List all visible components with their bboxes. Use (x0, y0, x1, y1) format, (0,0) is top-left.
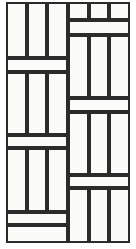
right-strip-block-4-tile-2 (90, 189, 109, 242)
left-strip-block-1 (7, 3, 67, 57)
left-strip-block-2-tile-3 (48, 73, 67, 134)
right-band-3 (69, 176, 129, 187)
left-strip-block-1-tile-3 (48, 3, 67, 57)
right-strip-block-2-tile-1 (69, 36, 88, 97)
right-band-2-tile (69, 99, 129, 111)
left-band-4 (7, 226, 67, 242)
right-strip-block-1-tile-3 (110, 3, 129, 19)
right-strip-block-3 (69, 113, 129, 174)
right-strip-block-2 (69, 36, 129, 97)
right-strip-block-3-tile-2 (90, 113, 109, 174)
right-strip-block-1-tile-1 (69, 3, 88, 19)
right-strip-block-1 (69, 3, 129, 19)
right-band-3-tile (69, 176, 129, 187)
left-strip-block-2 (7, 73, 67, 134)
left-band-1-tile (7, 59, 67, 71)
pattern-svg (0, 0, 136, 249)
right-strip-block-2-tile-2 (90, 36, 109, 97)
right-strip-block-4-tile-1 (69, 189, 88, 242)
left-strip-block-2-tile-1 (7, 73, 26, 134)
right-band-1 (69, 21, 129, 34)
left-band-4-tile (7, 226, 67, 242)
left-band-3 (7, 213, 67, 224)
left-strip-block-3-tile-1 (7, 149, 26, 211)
right-strip-block-4-tile-3 (110, 189, 129, 242)
left-strip-block-3 (7, 149, 67, 211)
right-strip-block-4 (69, 189, 129, 242)
right-band-1-tile (69, 21, 129, 34)
tile-pattern-diagram (0, 0, 136, 249)
left-band-1 (7, 59, 67, 71)
right-strip-block-3-tile-1 (69, 113, 88, 174)
left-band-3-tile (7, 213, 67, 224)
right-strip-block-1-tile-2 (90, 3, 109, 19)
left-strip-block-3-tile-2 (28, 149, 47, 211)
left-band-2-tile (7, 136, 67, 147)
left-strip-block-3-tile-3 (48, 149, 67, 211)
right-strip-block-3-tile-3 (110, 113, 129, 174)
left-strip-block-2-tile-2 (28, 73, 47, 134)
left-strip-block-1-tile-2 (28, 3, 47, 57)
right-strip-block-2-tile-3 (110, 36, 129, 97)
left-strip-block-1-tile-1 (7, 3, 26, 57)
left-band-2 (7, 136, 67, 147)
right-band-2 (69, 99, 129, 111)
